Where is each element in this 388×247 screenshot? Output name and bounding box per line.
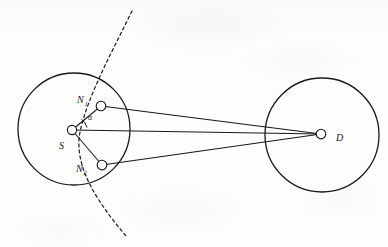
geometry-diagram: S N 1 N 2 D α [0,0,388,247]
edge-s-d [72,130,321,134]
label-alpha: α [88,113,93,122]
node-N2[interactable] [97,160,107,170]
edge-s-n2 [72,130,102,165]
dashed-boundary-arc [79,11,132,236]
node-N1[interactable] [96,101,106,111]
figure-root: S N 1 N 2 D α [0,0,388,247]
label-N1-group: N 1 [76,94,88,107]
edge-n2-d [102,134,321,165]
label-N1-subscript: 1 [85,100,88,107]
edge-n1-d [101,106,321,134]
label-N2-subscript: 2 [84,169,88,176]
label-N2-group: N 2 [75,163,88,176]
node-D[interactable] [316,129,326,139]
label-D: D [335,132,344,143]
node-S[interactable] [67,125,76,134]
label-S: S [59,140,64,151]
